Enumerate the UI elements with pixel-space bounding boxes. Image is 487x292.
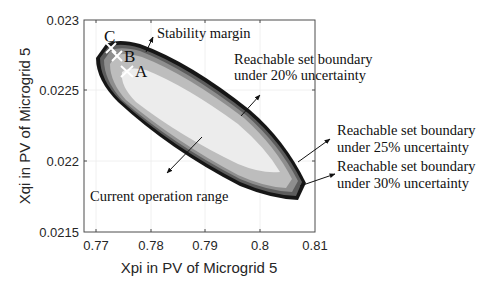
x-tick-0.8: 0.8: [251, 238, 269, 253]
x-axis-label: Xpi in PV of Microgrid 5: [121, 259, 278, 276]
rs25-annotation-line1: Reachable set boundary: [337, 122, 476, 138]
y-tick-0.0215: 0.0215: [39, 225, 79, 240]
y-axis-label: Xqi in PV of Microgrid 5: [16, 48, 33, 205]
y-tick-0.023: 0.023: [46, 13, 79, 28]
point-b-label: B: [124, 47, 135, 66]
rs20-annotation-line1: Reachable set boundary: [234, 51, 373, 67]
x-tick-0.81: 0.81: [302, 238, 327, 253]
x-tick-0.78: 0.78: [138, 238, 163, 253]
x-tick-0.79: 0.79: [192, 238, 217, 253]
rs20-annotation-line2: under 20% uncertainty: [234, 67, 367, 83]
rs30-annotation-line2: under 30% uncertainty: [337, 175, 470, 191]
reachable-set-chart: C B A 0.77 0.78 0.79 0.8 0.81 0.0215 0.0…: [0, 0, 487, 292]
y-tick-0.022: 0.022: [46, 154, 79, 169]
current-operation-annotation: Current operation range: [90, 188, 229, 204]
y-tick-0.0225: 0.0225: [39, 83, 79, 98]
stability-margin-annotation: Stability margin: [157, 25, 251, 41]
rs25-annotation-line2: under 25% uncertainty: [337, 139, 470, 155]
point-c-label: C: [104, 27, 115, 46]
point-a-label: A: [135, 62, 148, 81]
x-tick-0.77: 0.77: [83, 238, 108, 253]
rs30-annotation-line1: Reachable set boundary: [337, 158, 476, 174]
